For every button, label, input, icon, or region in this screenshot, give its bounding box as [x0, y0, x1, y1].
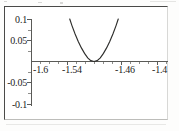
plot-area: 0.1 0.05 -0.05 -0.1 -1.6 -1.54 -1.46 -1.… — [0, 0, 179, 131]
parabola-curve — [70, 19, 119, 62]
curve-overlay — [0, 0, 179, 131]
scanned-page: 0.1 0.05 -0.05 -0.1 -1.6 -1.54 -1.46 -1.… — [0, 0, 179, 131]
